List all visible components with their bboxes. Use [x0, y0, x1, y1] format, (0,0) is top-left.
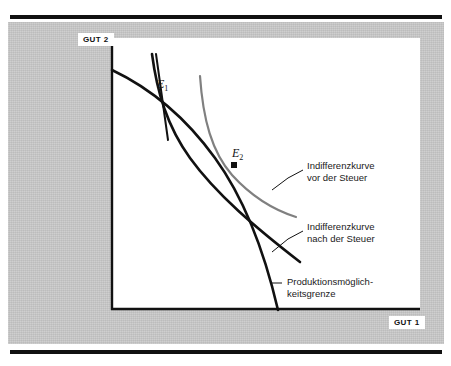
- chart-canvas: [0, 0, 451, 366]
- leader-line-before-tax: [272, 170, 303, 190]
- figure-root: GUT 2 GUT 1 E1 E2 Indifferenzkurve vor d…: [0, 0, 451, 366]
- point-label-e2-sub: 2: [239, 153, 243, 162]
- curve-production-possibility-frontier: [112, 70, 278, 310]
- axis-label-gut1: GUT 1: [389, 316, 425, 329]
- point-label-e1-sub: 1: [164, 84, 168, 93]
- axis-label-gut2: GUT 2: [78, 33, 114, 46]
- point-label-e2: E2: [232, 147, 243, 164]
- annotation-production-possibility-frontier: Produktionsmöglich- keitsgrenze: [287, 276, 373, 299]
- curve-indifference-before-tax: [200, 76, 296, 217]
- annotation-indifference-after-tax: Indifferenzkurve nach der Steuer: [307, 221, 375, 244]
- point-label-e1: E1: [157, 78, 168, 95]
- leader-line-after-tax: [272, 231, 303, 252]
- curve-indifference-after-tax: [152, 54, 300, 262]
- annotation-indifference-before-tax: Indifferenzkurve vor der Steuer: [307, 160, 374, 183]
